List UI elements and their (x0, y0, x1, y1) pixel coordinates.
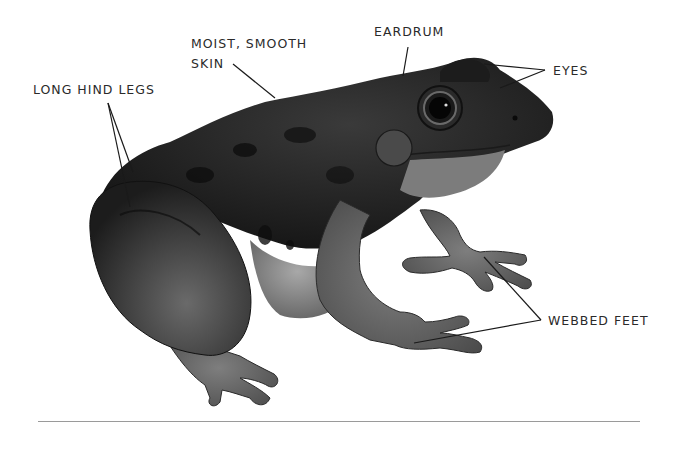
eye (418, 86, 462, 130)
label-moist-smooth-skin: MOIST, SMOOTH SKIN (191, 34, 307, 74)
leader-line-eardrum (403, 47, 408, 76)
bottom-rule (38, 421, 640, 422)
frog-diagram: MOIST, SMOOTH SKIN LONG HIND LEGS EARDRU… (0, 0, 676, 453)
label-eyes: EYES (553, 61, 588, 81)
front-leg-near (316, 200, 482, 353)
label-eardrum: EARDRUM (374, 22, 444, 42)
front-leg-far (403, 210, 532, 292)
label-moist-skin-line2: SKIN (191, 54, 307, 74)
label-webbed-feet: WEBBED FEET (548, 311, 649, 331)
label-moist-skin-line1: MOIST, SMOOTH (191, 34, 307, 54)
eardrum (376, 130, 412, 166)
nostril (513, 116, 518, 121)
label-long-hind-legs: LONG HIND LEGS (33, 80, 155, 100)
